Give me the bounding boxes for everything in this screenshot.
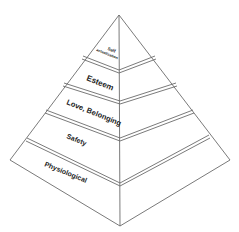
pyramid-diagram: Self actualization Esteem Love, Belongin… [0, 0, 239, 232]
tier-label-self-actualization: Self actualization [96, 42, 122, 60]
tier-label-esteem: Esteem [85, 74, 115, 93]
tier-label-safety: Safety [65, 132, 88, 147]
